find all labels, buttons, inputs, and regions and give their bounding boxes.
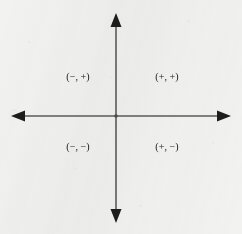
quadrant-1-label: (+, +) [155,72,179,82]
arrow-up-icon [111,13,122,27]
arrow-left-icon [11,111,25,122]
arrow-right-icon [217,111,231,122]
quadrant-3-label: (−, −) [66,142,90,152]
arrow-down-icon [111,209,122,223]
coordinate-plane-figure: (+, +) (−, +) (−, −) (+, −) [0,0,242,234]
origin-point [114,114,118,118]
quadrant-4-label: (+, −) [155,142,179,152]
quadrant-2-label: (−, +) [66,72,90,82]
axes-diagram [0,0,242,234]
